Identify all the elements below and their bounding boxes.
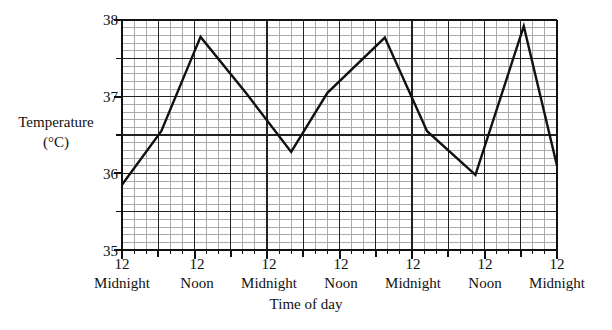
grid-major-lines: [122, 20, 557, 250]
axis-ticks: [114, 20, 557, 259]
temperature-line-chart: Temperature (°C) 38 37 36 35 12 Midnight…: [0, 0, 612, 330]
chart-canvas: [0, 0, 612, 330]
